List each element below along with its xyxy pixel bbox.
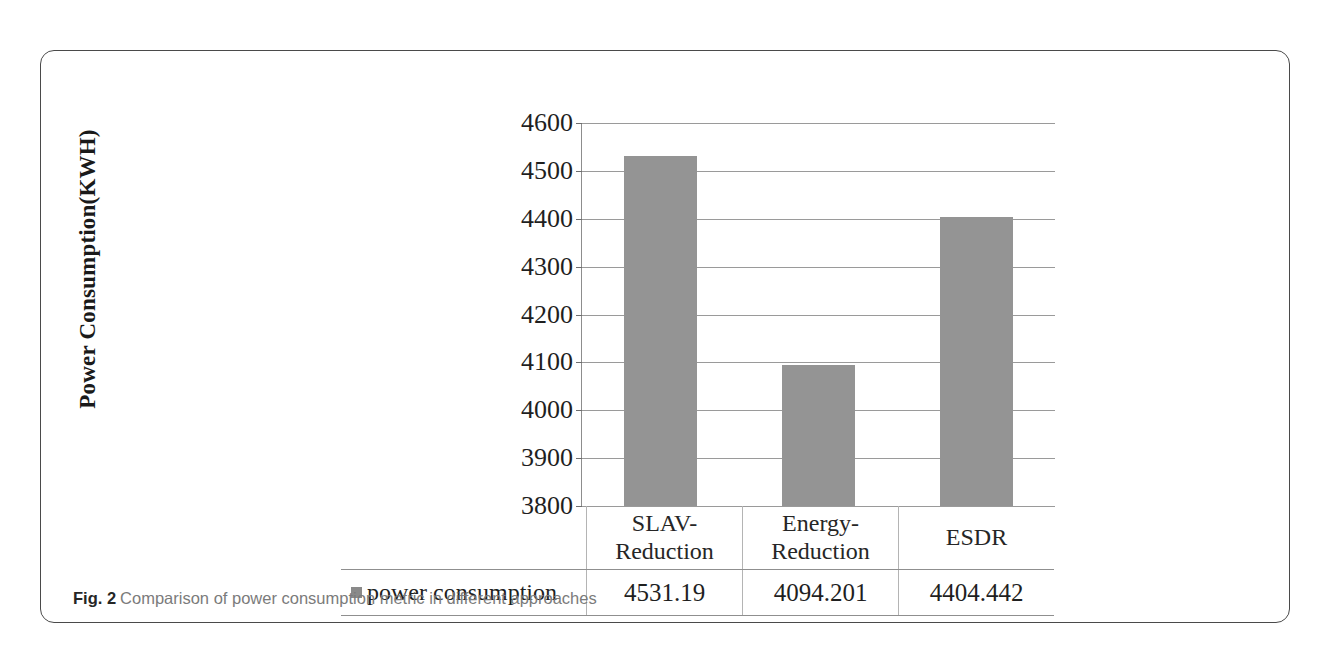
y-axis-tick-label: 4600: [489, 110, 573, 136]
table-header-cell: Energy-Reduction: [742, 506, 898, 569]
y-axis-tick-label: 4300: [489, 254, 573, 280]
y-axis-tick-label: 4400: [489, 206, 573, 232]
y-axis-tick-label: 4000: [489, 397, 573, 423]
bar[interactable]: [940, 217, 1013, 506]
y-axis-tick: [576, 458, 582, 459]
y-axis-title: Power Consumption(KWH): [75, 104, 101, 434]
y-axis-tick-label: 4500: [489, 158, 573, 184]
y-axis-tick: [576, 410, 582, 411]
y-axis-tick-label: 4100: [489, 349, 573, 375]
figure-caption-label: Fig. 2: [73, 589, 116, 607]
table-header-cell: ESDR: [898, 506, 1054, 569]
y-axis-tick-label: 4200: [489, 302, 573, 328]
figure-caption-text: Comparison of power consumption metric i…: [120, 589, 597, 607]
bar-chart: Power Consumption(KWH) 46004500440043004…: [41, 51, 1291, 581]
bar[interactable]: [782, 365, 855, 506]
y-axis-tick: [576, 362, 582, 363]
gridline: [582, 123, 1055, 124]
plot-area: [581, 123, 1055, 506]
figure-card: Power Consumption(KWH) 46004500440043004…: [40, 50, 1290, 623]
y-axis-tick-labels: 460045004400430042004100400039003800: [489, 61, 573, 456]
y-axis-tick-label: 3900: [489, 445, 573, 471]
y-axis-tick: [576, 315, 582, 316]
table-header-row: SLAV-ReductionEnergy-ReductionESDR: [586, 506, 1054, 569]
y-axis-tick: [576, 267, 582, 268]
table-header-cell: SLAV-Reduction: [586, 506, 742, 569]
bar[interactable]: [624, 156, 697, 506]
y-axis-tick: [576, 171, 582, 172]
y-axis-tick: [576, 219, 582, 220]
y-axis-tick: [576, 123, 582, 124]
figure-caption: Fig. 2Comparison of power consumption me…: [73, 589, 1253, 608]
